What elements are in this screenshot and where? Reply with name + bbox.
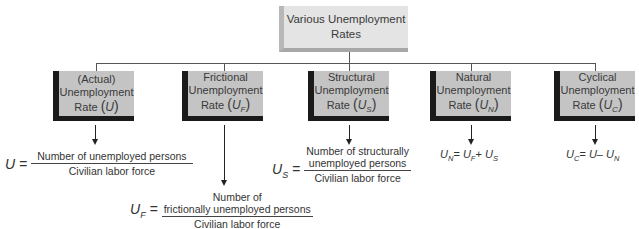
formula-cyclical-b: U (606, 148, 614, 160)
formula-structural-lhs-sub: S (282, 170, 288, 180)
formula-structural-lhs: US = (272, 161, 300, 180)
formula-frictional-lhs-sub: F (140, 210, 146, 220)
formula-actual-fraction: Number of unemployed persons Civilian la… (31, 150, 192, 177)
formula-frictional-numerator-line2: frictionally unemployed persons (164, 203, 311, 215)
node-actual-line2: Unemployment (60, 86, 134, 100)
formula-natural-lhs: U (440, 148, 448, 160)
formula-actual-lhs: U = (5, 156, 27, 172)
formula-natural-b: U (485, 148, 493, 160)
formula-structural-numerator-line2: unemployed persons (309, 157, 406, 169)
formula-frictional-numerator: Number of frictionally unemployed person… (162, 191, 313, 217)
formula-cyclical-b-sub: N (614, 154, 619, 163)
formula-frictional-fraction: Number of frictionally unemployed person… (162, 191, 313, 229)
formula-cyclical: UC= U– UN (566, 148, 619, 163)
formula-structural-fraction: Number of structurally unemployed person… (304, 145, 411, 184)
node-cyclical-line1: Cyclical (579, 71, 617, 85)
node-structural-rate-word: Rate (327, 99, 350, 111)
formula-frictional-numerator-line1: Number of (213, 191, 262, 203)
node-natural-line3: Rate (UN) (448, 98, 498, 117)
formula-structural: US = Number of structurally unemployed p… (272, 145, 411, 184)
node-natural-line1: Natural (456, 71, 491, 85)
root-node-various-unemployment-rates: Various Unemployment Rates (279, 6, 408, 52)
formula-cyclical-eq: = (579, 148, 585, 160)
node-structural-unemployment-rate: Structural Unemployment Rate (US) (308, 71, 389, 121)
node-cyclical-unemployment-rate: Cyclical Unemployment Rate (UC) (554, 71, 635, 121)
root-label-line1: Various Unemployment (287, 12, 406, 27)
node-actual-symbol: U (105, 100, 114, 114)
formula-cyclical-op: – (597, 148, 603, 160)
formula-frictional-denominator: Civilian labor force (194, 217, 280, 229)
node-frictional-line1: Frictional (203, 71, 248, 85)
formula-structural-denominator: Civilian labor force (314, 171, 400, 184)
node-natural-rate-word: Rate (448, 99, 471, 111)
formula-natural-eq: = (453, 148, 459, 160)
formula-actual: U = Number of unemployed persons Civilia… (5, 150, 193, 177)
connector-horizontal (96, 63, 596, 64)
arrow-down-icon (224, 125, 225, 181)
node-natural-symbol: U (479, 98, 488, 112)
arrow-down-icon (471, 125, 472, 140)
node-frictional-symbol: U (232, 98, 241, 112)
root-label-line2: Rates (287, 27, 406, 42)
node-cyclical-symbol: U (603, 98, 612, 112)
node-frictional-rate-word: Rate (201, 99, 224, 111)
node-cyclical-line2: Unemployment (561, 84, 635, 98)
arrow-down-icon (349, 125, 350, 140)
formula-frictional: UF = Number of frictionally unemployed p… (130, 191, 313, 229)
node-frictional-unemployment-rate: Frictional Unemployment Rate (UF) (182, 71, 263, 121)
node-actual-line1: (Actual) (78, 73, 116, 87)
node-actual-rate-word: Rate (74, 101, 97, 113)
node-structural-line3: Rate (US) (327, 98, 377, 117)
formula-structural-numerator: Number of structurally unemployed person… (304, 145, 411, 171)
node-cyclical-rate-word: Rate (572, 99, 595, 111)
formula-actual-lhs-symbol: U (5, 156, 15, 172)
node-natural-line2: Unemployment (437, 84, 511, 98)
formula-natural-op: + (475, 148, 481, 160)
formula-structural-lhs-symbol: U (272, 161, 282, 177)
formula-cyclical-a: U (589, 148, 597, 160)
formula-cyclical-lhs: U (566, 148, 574, 160)
formula-natural-a: U (463, 148, 471, 160)
connector-root-down (349, 52, 350, 63)
node-cyclical-line3: Rate (UC) (572, 98, 622, 117)
node-actual-unemployment-rate: (Actual) Unemployment Rate (U) (53, 71, 134, 121)
node-structural-symbol: U (358, 98, 367, 112)
node-frictional-line3: Rate (UF) (201, 98, 250, 117)
formula-actual-numerator: Number of unemployed persons (31, 150, 192, 164)
formula-natural: UN= UF+ US (440, 148, 498, 163)
arrow-down-icon (95, 125, 96, 140)
node-natural-unemployment-rate: Natural Unemployment Rate (UN) (430, 71, 511, 121)
arrow-down-icon (595, 125, 596, 140)
formula-frictional-lhs-symbol: U (130, 201, 140, 217)
node-frictional-line2: Unemployment (189, 84, 263, 98)
formula-structural-numerator-line1: Number of structurally (306, 145, 409, 157)
formula-natural-b-sub: S (493, 154, 498, 163)
node-structural-line1: Structural (328, 71, 375, 85)
node-structural-line2: Unemployment (315, 84, 389, 98)
node-actual-line3: Rate (U) (74, 100, 118, 115)
formula-actual-denominator: Civilian labor force (69, 164, 155, 177)
formula-frictional-lhs: UF = (130, 201, 158, 220)
